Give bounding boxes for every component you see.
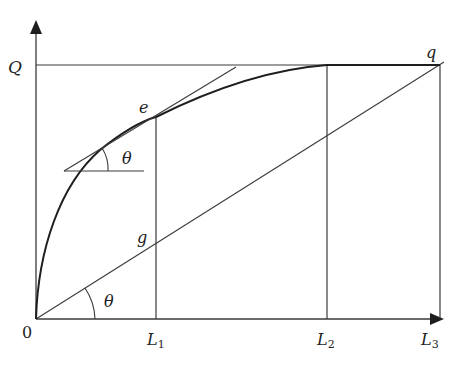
diagonal-line-0-q xyxy=(36,62,444,319)
point-label-e: e xyxy=(139,98,148,117)
x-tick-label-l1: L1 xyxy=(146,330,165,351)
origin-angle-arc xyxy=(85,288,95,319)
point-label-q: q xyxy=(426,43,436,62)
y-axis-arrow-icon xyxy=(30,20,42,34)
y-axis-label-q: Q xyxy=(8,57,22,77)
tangent-line xyxy=(64,67,236,171)
diagram-canvas: Q 0 e g q θ θ L1 L2 L3 xyxy=(0,0,451,365)
x-axis xyxy=(36,313,444,325)
x-axis-arrow-icon xyxy=(430,313,444,325)
point-label-g: g xyxy=(137,228,147,247)
tangent-angle-arc xyxy=(102,148,108,171)
x-tick-label-l2: L2 xyxy=(316,330,335,351)
x-tick-label-l3: L3 xyxy=(420,330,439,351)
tangent-angle-label: θ xyxy=(122,149,132,168)
origin-angle-label: θ xyxy=(104,292,114,311)
origin-label: 0 xyxy=(22,323,32,342)
